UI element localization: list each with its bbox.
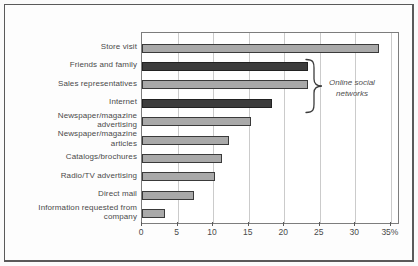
category-label-direct-mail: Direct mail [6,189,137,199]
bar-newspaper-magazine-advertising [142,117,251,126]
category-label-store-visit: Store visit [6,42,137,52]
category-label-line: Information requested from [6,203,137,213]
gridline-35 [391,33,392,223]
category-label-line: Newspaper/magazine [6,129,137,139]
category-label-information-requested-from-company: Information requested fromcompany [6,203,137,222]
category-label-line: articles [6,139,137,149]
x-axis-tick-5 [177,222,178,226]
bar-information-requested-from-company [142,209,165,218]
x-axis-tick-35 [390,222,391,226]
x-axis-tick-25 [319,222,320,226]
x-axis-tick-label-25: 25 [304,227,334,237]
x-axis-tick-label-5: 5 [162,227,192,237]
category-label-catalogs-brochures: Catalogs/brochures [6,152,137,162]
gridline-30 [355,33,356,223]
bar-direct-mail [142,191,194,200]
category-label-line: Store visit [6,42,137,52]
category-label-line: Catalogs/brochures [6,152,137,162]
x-axis-tick-label-0: 0 [126,227,156,237]
x-axis-tick-20 [283,222,284,226]
x-axis-tick-30 [354,222,355,226]
category-label-newspaper-magazine-advertising: Newspaper/magazineadvertising [6,111,137,130]
bar-store-visit [142,44,379,53]
category-label-sales-representatives: Sales representatives [6,79,137,89]
x-axis-tick-label-15: 15 [233,227,263,237]
x-axis-tick-10 [212,222,213,226]
annotation-line-1: Online social [319,77,385,88]
x-axis-tick-label-35: 35% [375,227,405,237]
category-label-newspaper-magazine-articles: Newspaper/magazinearticles [6,129,137,148]
annotation-text: Online social networks [319,77,385,99]
x-axis-tick-0 [141,222,142,226]
bar-sales-representatives [142,80,308,89]
x-axis-tick-15 [248,222,249,226]
figure: Online social networks Store visitFriend… [0,0,418,266]
category-label-line: Sales representatives [6,79,137,89]
category-label-friends-and-family: Friends and family [6,60,137,70]
x-axis-tick-label-30: 30 [339,227,369,237]
bar-internet [142,99,272,108]
category-label-line: company [6,212,137,222]
category-label-line: Newspaper/magazine [6,111,137,121]
plot-area [141,32,399,224]
bar-radio-tv-advertising [142,172,215,181]
category-label-internet: Internet [6,97,137,107]
annotation-line-2: networks [319,88,385,99]
category-label-radio-tv-advertising: Radio/TV advertising [6,171,137,181]
bar-friends-and-family [142,62,308,71]
x-axis-tick-label-20: 20 [268,227,298,237]
category-label-line: Internet [6,97,137,107]
category-label-line: Direct mail [6,189,137,199]
category-label-line: Radio/TV advertising [6,171,137,181]
bar-catalogs-brochures [142,154,222,163]
category-label-line: Friends and family [6,60,137,70]
bar-newspaper-magazine-articles [142,136,229,145]
x-axis-tick-label-10: 10 [197,227,227,237]
